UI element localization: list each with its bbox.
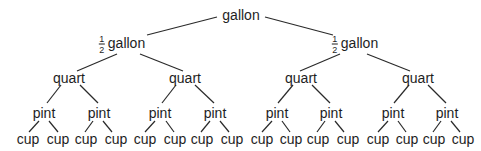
node-half-gallon-left: 1 2 gallon [99, 35, 145, 54]
fraction-one-half: 1 2 [99, 35, 105, 54]
edge [77, 54, 117, 71]
node-quart: quart [285, 71, 317, 85]
node-cup: cup [396, 132, 419, 146]
fraction-one-half: 1 2 [332, 35, 338, 54]
edge [428, 85, 446, 103]
edge [80, 85, 98, 103]
node-pint: pint [320, 106, 343, 120]
fraction-denominator: 2 [332, 46, 337, 54]
edge [300, 54, 340, 71]
edge [367, 54, 410, 71]
fraction-numerator: 1 [332, 35, 337, 43]
edge [312, 85, 330, 103]
node-cup: cup [47, 132, 70, 146]
node-gallon: gallon [222, 8, 259, 22]
node-cup: cup [105, 132, 128, 146]
node-cup: cup [280, 132, 303, 146]
edge [140, 54, 183, 71]
node-cup: cup [75, 132, 98, 146]
node-cup: cup [452, 132, 475, 146]
node-cup: cup [367, 132, 390, 146]
node-pint: pint [204, 106, 227, 120]
edge [47, 85, 61, 103]
node-pint: pint [436, 106, 459, 120]
node-cup: cup [164, 132, 187, 146]
node-pint: pint [266, 106, 289, 120]
edge [394, 85, 409, 103]
node-quart: quart [53, 71, 85, 85]
node-cup: cup [251, 132, 274, 146]
edge [195, 85, 214, 103]
node-half-gallon-right: 1 2 gallon [332, 35, 378, 54]
node-cup: cup [17, 132, 40, 146]
node-cup: cup [307, 132, 330, 146]
fraction-denominator: 2 [99, 46, 104, 54]
node-cup: cup [423, 132, 446, 146]
node-pint: pint [33, 106, 56, 120]
node-label: gallon [108, 35, 145, 51]
edge [162, 85, 176, 103]
node-cup: cup [337, 132, 360, 146]
node-cup: cup [191, 132, 214, 146]
edge [147, 17, 217, 35]
node-quart: quart [402, 71, 434, 85]
edge [278, 85, 293, 103]
node-cup: cup [134, 132, 157, 146]
node-quart: quart [169, 71, 201, 85]
fraction-numerator: 1 [99, 35, 104, 43]
node-pint: pint [382, 106, 405, 120]
edge [265, 17, 333, 35]
node-pint: pint [88, 106, 111, 120]
node-label: gallon [341, 35, 378, 51]
node-pint: pint [149, 106, 172, 120]
node-cup: cup [221, 132, 244, 146]
